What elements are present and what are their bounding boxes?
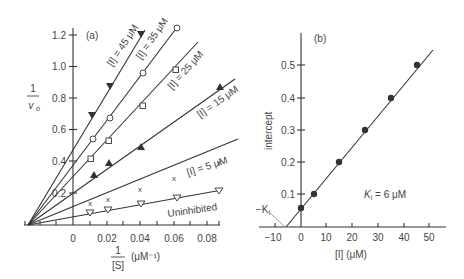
panel-b: 0.5 0.4 0.3 0.2 0.1 −10 0 10 20 30 40 50… <box>256 33 446 260</box>
b-ytick-0.2: 0.2 <box>281 157 295 168</box>
a-label-45uM: [I] = 45 μM <box>105 22 141 68</box>
b-ytick-0.4: 0.4 <box>281 93 295 104</box>
a-xtick-0: 0 <box>70 233 76 244</box>
b-xtick-40: 40 <box>398 232 410 243</box>
b-xtick-30: 30 <box>372 232 384 243</box>
b-ytick-0.3: 0.3 <box>281 125 295 136</box>
b-x-ticks <box>275 223 429 227</box>
a-ytick-0.8: 0.8 <box>52 93 66 104</box>
b-ytick-0.5: 0.5 <box>281 60 295 71</box>
figure: 1.2 1.0 0.8 0.6 0.4 0.2 0 0.02 0.04 0.06… <box>0 0 464 279</box>
b-y-label: intercept <box>263 111 274 150</box>
b-xtick-50: 50 <box>423 232 435 243</box>
svg-text:v: v <box>29 100 35 111</box>
svg-text:(μM⁻¹): (μM⁻¹) <box>131 251 160 262</box>
b-xtick-20: 20 <box>346 232 358 243</box>
b-xtick-0: 0 <box>298 232 304 243</box>
a-panel-title: (a) <box>86 30 98 41</box>
ki-marker-label: −Ki <box>256 204 271 216</box>
a-xtick-0.06: 0.06 <box>164 233 184 244</box>
svg-text:x: x <box>172 174 176 183</box>
ki-pointer <box>270 213 284 226</box>
svg-text:x: x <box>106 195 110 204</box>
svg-text:x: x <box>88 199 92 208</box>
b-xtick-10: 10 <box>320 232 332 243</box>
a-xtick-0.08: 0.08 <box>197 233 217 244</box>
a-label-uninhibited: Uninhibited <box>167 201 218 219</box>
svg-text:[S]: [S] <box>112 260 124 271</box>
a-markers-25uM <box>88 67 179 162</box>
panel-a: 1.2 1.0 0.8 0.6 0.4 0.2 0 0.02 0.04 0.06… <box>24 16 240 271</box>
svg-text:1: 1 <box>30 83 36 94</box>
a-xtick-0.04: 0.04 <box>130 233 150 244</box>
a-label-35uM: [I] = 35 μM <box>134 16 170 61</box>
a-x-label: 1 [S] (μM⁻¹) <box>111 245 160 271</box>
a-ytick-1.2: 1.2 <box>52 30 66 41</box>
a-x-ticks <box>25 221 219 225</box>
b-xtick--10: −10 <box>265 232 282 243</box>
a-ytick-0.6: 0.6 <box>52 124 66 135</box>
a-xtick-0.02: 0.02 <box>97 233 117 244</box>
a-ytick-1.0: 1.0 <box>52 61 66 72</box>
ki-value-label: Ki = 6 μM <box>364 189 406 201</box>
svg-text:1: 1 <box>115 245 121 256</box>
a-y-label: 1 v o <box>27 83 40 112</box>
b-panel-title: (b) <box>314 33 326 44</box>
b-ytick-0.1: 0.1 <box>281 189 295 200</box>
b-x-label: [I] (μM) <box>335 249 367 260</box>
svg-text:x: x <box>138 185 142 194</box>
svg-text:o: o <box>36 105 40 112</box>
b-fit-line <box>286 50 433 227</box>
